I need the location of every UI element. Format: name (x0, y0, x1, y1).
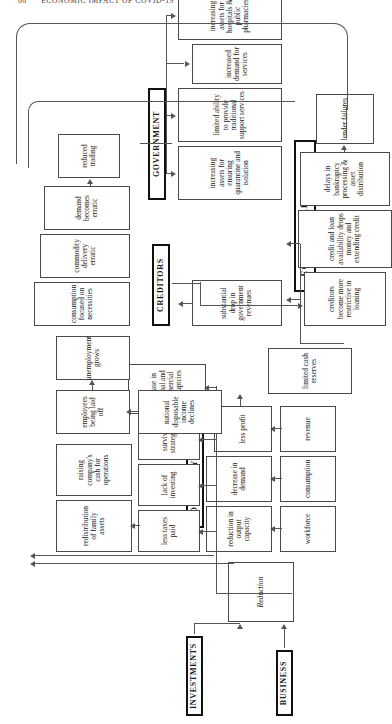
group-label-creditors: CREDITORS (152, 244, 170, 326)
connector-invest-long-left (34, 563, 234, 564)
arrowhead-workforce-up (270, 526, 275, 532)
arrowhead-revenues-up (178, 301, 183, 307)
connector-creditors-stem (172, 283, 200, 284)
connector-gov-bus-stem (140, 143, 166, 144)
node-creditors-restrictive: creditors become more restrictive in loa… (304, 272, 386, 326)
arrowhead-revenue-up (270, 426, 275, 432)
arrowhead-taxes-up (198, 529, 203, 535)
arrowhead-investments-reduction (237, 624, 243, 629)
arrowhead-gov-b1 (171, 171, 176, 177)
connector-bk-up1 (290, 299, 300, 300)
arrowhead-investing-up (198, 483, 203, 489)
node-substantial-drop-revenues: substantial drop in government revenues (192, 280, 282, 326)
connector-revenues-up (182, 303, 192, 304)
node-employees-laid-off: employees being laid off (56, 390, 130, 434)
connector-survival-up (202, 439, 216, 440)
node-demand-becomes-erratic: demand becomes erratic (44, 186, 130, 230)
connector-profit-cash (240, 398, 241, 406)
connector-income-to-laidoff (130, 411, 138, 412)
arrowhead-invest-long-right (30, 553, 35, 559)
arrowhead-invest-long-left (30, 561, 35, 567)
node-gov-quarantine-assets: increasing assets for ensuring quarantin… (178, 146, 282, 200)
arrowhead-consumption-up (270, 476, 275, 482)
connector-investments-down (194, 623, 240, 624)
node-limited-cash-reserves: limited cash reserves (268, 348, 352, 394)
node-consumption-necessities: consumption focused on necessities (34, 282, 130, 326)
node-redistribution-family-assets: redistribution of family assets (56, 500, 132, 552)
connector-investing-up (202, 485, 216, 486)
node-less-profit: less profit (214, 406, 272, 452)
node-bankruptcy-delays: delays in bankruptcy processing & asset … (300, 152, 390, 206)
connector-bus-feeder-drop (216, 593, 292, 594)
arrowhead-profit-cash (237, 394, 243, 399)
arrowhead-laidoff-unemployment (89, 380, 95, 385)
node-reduction: Reduction (228, 562, 294, 622)
node-commodity-delivery-erratic: commodity delivery erratic (40, 234, 130, 278)
node-raising-company-cash: raising company's cash for operations (56, 444, 132, 496)
feedback-loop-inner-tail (28, 122, 29, 168)
connector-bk-to-creditors (300, 343, 344, 344)
arrowhead-bk-up1 (286, 297, 291, 303)
connector-bk-up2 (290, 243, 300, 244)
connector-business-reduction (284, 628, 285, 648)
connector-bankruptcy-up (208, 387, 216, 388)
node-lack-of-investing: lack of investing (138, 464, 200, 506)
group-label-business: BUSINESS (276, 650, 293, 716)
arrowhead-gov-b4 (171, 13, 176, 19)
node-national-disposable-income: national disposable income declines (138, 390, 222, 434)
node-workforce: workforce (280, 506, 336, 552)
arrowhead-survival-up (198, 437, 203, 443)
arrowhead-bk-up2 (286, 241, 291, 247)
node-consumption: consumption (280, 456, 336, 502)
arrowhead-erratic-trading (87, 179, 93, 184)
feedback-loop-inner (28, 101, 295, 124)
connector-creditors-bus (200, 282, 201, 306)
group-label-investments: INVESTMENTS (186, 636, 203, 716)
feedback-loop-top-tail (16, 108, 17, 164)
connector-gov-label-down (166, 143, 172, 144)
connector-revenue-up (274, 428, 282, 429)
node-revenue: revenue (280, 406, 336, 452)
node-less-taxes-paid: less taxes paid (138, 510, 200, 552)
connector-workforce-up (274, 528, 282, 529)
arrowhead-delays-lender (341, 145, 347, 150)
feedback-loop-bottom-tail (346, 108, 347, 138)
connector-bk-bus (300, 244, 301, 344)
feedback-loop-outer (16, 23, 348, 110)
arrowhead-income-to-laidoff (126, 409, 131, 415)
connector-creditors-drop (200, 305, 298, 306)
arrowhead-redistribution-up (130, 523, 135, 529)
node-unemployment-grows: unemployment grows (56, 336, 130, 380)
arrowhead-business-reduction (281, 624, 287, 629)
connector-invest-long-right (34, 555, 214, 556)
connector-consumption-up (274, 478, 282, 479)
node-credit-availability-drops: credit and loan availability drops money… (298, 210, 392, 268)
node-reduced-trading: reduced trading (58, 134, 120, 178)
connector-taxes-up (202, 531, 216, 532)
connector-investments-reduction (194, 624, 195, 634)
